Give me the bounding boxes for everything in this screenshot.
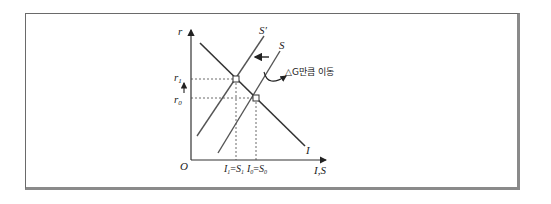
y-axis-label: r: [178, 25, 183, 37]
is-diagram: r O I,S S′ S I r1 r0 I1=S1 I0=S0 △G만큼 이동: [0, 0, 551, 204]
x-axis-label: I,S: [313, 164, 326, 176]
guide-lines: [191, 79, 256, 160]
curve-label-i: I: [305, 144, 311, 156]
tick-label-i1-s1: I1=S1: [223, 163, 244, 175]
savings-curve: [218, 51, 280, 153]
origin-label: O: [180, 160, 188, 172]
tick-label-i0-s0: I0=S0: [246, 163, 267, 175]
tick-label-r1: r1: [174, 71, 182, 85]
shift-annotation: △G만큼 이동: [285, 67, 334, 77]
tick-label-r0: r0: [174, 93, 182, 107]
equilibrium-point-1: [233, 76, 239, 82]
curve-label-s-prime: S′: [259, 24, 268, 36]
curved-arrow-icon: [264, 72, 286, 81]
equilibrium-point-0: [253, 95, 259, 101]
curve-label-s: S: [279, 39, 285, 51]
